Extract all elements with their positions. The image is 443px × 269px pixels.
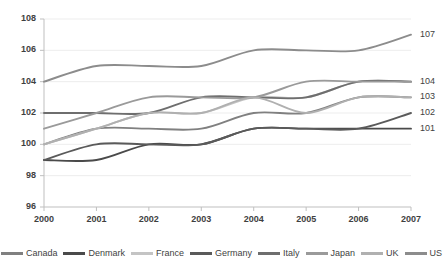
series-line-us (44, 35, 411, 82)
legend-swatch-icon (258, 252, 280, 255)
legend-item-label: Canada (26, 248, 58, 258)
y-tick-label: 104 (10, 76, 36, 86)
legend-swatch-icon (306, 252, 328, 255)
legend-item-label: Denmark (88, 248, 125, 258)
y-tick-label: 106 (10, 44, 36, 54)
legend-item-label: US (430, 248, 443, 258)
x-tick-label: 2003 (181, 214, 221, 224)
y-tick-label: 102 (10, 107, 36, 117)
legend-item-label: UK (386, 248, 399, 258)
end-value-label: 101 (420, 123, 443, 133)
legend-swatch-icon (405, 252, 427, 255)
y-tick-label: 108 (10, 13, 36, 23)
legend-item-germany[interactable]: Germany (190, 248, 252, 258)
y-tick-label: 96 (10, 201, 36, 211)
y-tick-label: 100 (10, 138, 36, 148)
legend-item-japan[interactable]: Japan (306, 248, 356, 258)
end-value-label: 103 (420, 91, 443, 101)
legend-swatch-icon (361, 252, 383, 255)
legend-item-uk[interactable]: UK (361, 248, 399, 258)
chart-legend: CanadaDenmarkFranceGermanyItalyJapanUKUS (0, 243, 443, 263)
x-tick-label: 2005 (286, 214, 326, 224)
end-value-label: 102 (420, 107, 443, 117)
legend-item-denmark[interactable]: Denmark (63, 248, 125, 258)
y-tick-label: 98 (10, 170, 36, 180)
x-tick-label: 2006 (339, 214, 379, 224)
line-chart: 9698100102104106108 20002001200220032004… (0, 0, 443, 269)
legend-swatch-icon (1, 252, 23, 255)
legend-item-italy[interactable]: Italy (258, 248, 300, 258)
x-tick-label: 2001 (76, 214, 116, 224)
legend-item-label: France (156, 248, 184, 258)
legend-item-label: Japan (331, 248, 356, 258)
legend-swatch-icon (63, 252, 85, 255)
legend-item-label: Italy (283, 248, 300, 258)
x-tick-label: 2002 (129, 214, 169, 224)
x-tick-label: 2007 (391, 214, 431, 224)
x-tick-label: 2000 (24, 214, 64, 224)
end-value-label: 104 (420, 76, 443, 86)
legend-item-canada[interactable]: Canada (1, 248, 58, 258)
legend-item-france[interactable]: France (131, 248, 184, 258)
chart-plot-area (0, 0, 443, 269)
legend-item-label: Germany (215, 248, 252, 258)
legend-item-us[interactable]: US (405, 248, 443, 258)
x-tick-label: 2004 (234, 214, 274, 224)
legend-swatch-icon (131, 252, 153, 255)
legend-swatch-icon (190, 252, 212, 255)
end-value-label: 107 (420, 29, 443, 39)
